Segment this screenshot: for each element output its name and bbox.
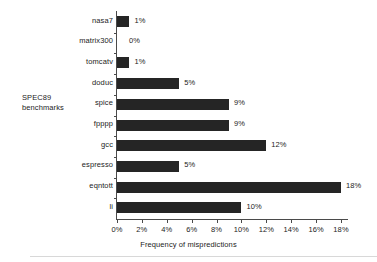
bar-row: spice9% [117,95,341,116]
bar [117,182,341,193]
x-axis-tick-label: 4% [161,225,172,235]
x-axis-tick-label: 16% [308,225,323,235]
bar-value-label: 9% [234,97,245,108]
x-axis-tick-label: 0% [111,225,122,235]
bar-value-label: 18% [346,180,361,191]
x-axis-spine [116,219,348,220]
bar [117,99,229,110]
bar-row: tomcatv1% [117,53,341,74]
x-axis-tick [241,219,242,223]
bar-row: fpppp9% [117,116,341,137]
category-label: nasa7 [92,15,113,26]
bar-value-label: 1% [134,56,145,67]
x-axis-tick-label: 6% [186,225,197,235]
category-label: li [109,201,113,212]
x-axis-tick [266,219,267,223]
x-axis-tick [142,219,143,223]
bar [117,161,179,172]
category-label: gcc [101,139,113,150]
bar [117,78,179,89]
x-axis-tick [291,219,292,223]
category-label: espresso [82,159,113,170]
category-label: matrix300 [79,35,113,46]
bar [117,202,241,213]
x-axis-tick [341,219,342,223]
x-axis-tick [217,219,218,223]
category-label: eqntott [89,180,113,191]
category-label: tomcatv [86,56,113,67]
bar-value-label: 12% [271,139,286,150]
y-axis-title-line-1: SPEC89 [22,93,94,103]
x-axis-tick [192,219,193,223]
bar-value-label: 10% [246,201,261,212]
plot-area: nasa71%matrix3000%tomcatv1%doduc5%spice9… [117,12,341,219]
bar-value-label: 9% [234,118,245,129]
bar-value-label: 1% [134,15,145,26]
bar [117,57,129,68]
x-axis-tick-label: 14% [284,225,299,235]
x-axis-tick-label: 18% [333,225,348,235]
page-rule-divider [30,256,377,257]
x-axis-tick [167,219,168,223]
bar [117,140,266,151]
bar-row: nasa71% [117,12,341,33]
bar [117,120,229,131]
category-label: fpppp [94,118,113,129]
y-axis-tick [114,74,117,75]
bar-value-label: 5% [184,77,195,88]
category-label: spice [95,97,113,108]
y-axis-tick [114,178,117,179]
x-axis-tick-label: 2% [136,225,147,235]
y-axis-title: SPEC89 benchmarks [22,93,94,113]
bar-chart: SPEC89 benchmarks nasa71%matrix3000%tomc… [0,0,377,262]
y-axis-tick [114,95,117,96]
y-axis-tick [114,198,117,199]
bar [117,16,129,27]
bar-value-label: 0% [129,35,140,46]
x-axis-tick-label: 8% [211,225,222,235]
x-axis-title: Frequency of mispredictions [0,240,377,249]
bar-row: espresso5% [117,157,341,178]
y-axis-title-line-2: benchmarks [22,103,94,113]
bar-row: matrix3000% [117,33,341,54]
bar-row: li10% [117,198,341,219]
y-axis-tick [114,116,117,117]
y-axis-tick [114,157,117,158]
bar-row: doduc5% [117,74,341,95]
bar-row: eqntott18% [117,178,341,199]
x-axis-tick-label: 10% [234,225,249,235]
bar-value-label: 5% [184,159,195,170]
y-axis-tick [114,53,117,54]
x-axis-tick [316,219,317,223]
category-label: doduc [92,77,113,88]
bar-row: gcc12% [117,136,341,157]
x-axis-tick-label: 12% [259,225,274,235]
y-axis-tick [114,136,117,137]
y-axis-tick [114,33,117,34]
x-axis-tick [117,219,118,223]
